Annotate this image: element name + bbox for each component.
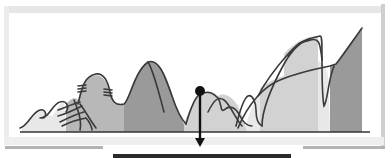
band-9 <box>318 60 330 132</box>
band-8 <box>284 36 318 132</box>
band-3 <box>124 62 184 132</box>
waveform-diagram <box>0 0 392 158</box>
band-10 <box>330 28 362 132</box>
